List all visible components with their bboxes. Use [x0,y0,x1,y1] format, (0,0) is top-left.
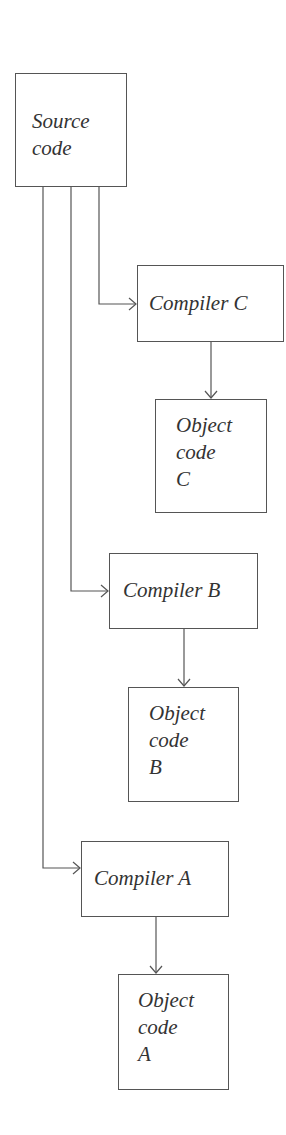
node-label: Object code B [149,700,205,781]
compiler-b-node: Compiler B [109,553,258,629]
edge-source-compiler-a [43,187,80,868]
compiler-c-node: Compiler C [137,265,284,342]
object-code-b-node: Object code B [128,687,239,802]
object-code-c-node: Object code C [155,399,267,513]
edge-source-compiler-c [99,187,136,304]
node-label: Source code [32,108,90,162]
node-label: Compiler A [94,865,191,892]
compiler-a-node: Compiler A [81,841,229,917]
node-label: Object code C [176,412,232,493]
node-label: Object code A [138,987,194,1068]
source-code-node: Source code [15,73,127,187]
edge-source-compiler-b [71,187,108,591]
object-code-a-node: Object code A [118,974,229,1090]
node-label: Compiler B [123,577,220,604]
node-label: Compiler C [149,290,248,317]
